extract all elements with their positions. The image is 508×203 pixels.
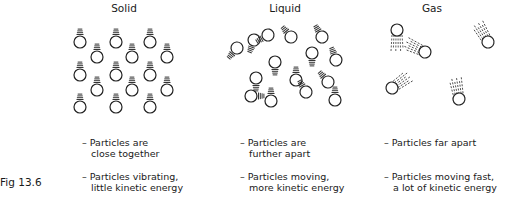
liquid-particle — [326, 46, 344, 68]
liquid-particle — [265, 88, 277, 107]
gas-caption-energy: – Particles moving fast, a lot of kineti… — [384, 171, 497, 193]
solid-particle — [91, 77, 103, 96]
solid-particle — [161, 77, 173, 96]
liquid-particle — [329, 87, 341, 106]
liquid-particle — [245, 90, 264, 102]
solid-particle — [144, 94, 156, 113]
liquid-caption-spacing: – Particles are further apart — [240, 137, 310, 159]
gas-particle — [403, 38, 433, 60]
solid-particle — [74, 62, 86, 81]
gas-particle — [472, 21, 496, 50]
liquid-particle — [269, 56, 281, 75]
gas-caption-spacing: – Particles far apart — [384, 137, 476, 148]
liquid-particle — [278, 23, 299, 45]
solid-particle — [126, 44, 138, 63]
solid-caption-spacing: – Particles are close together — [82, 137, 159, 159]
solid-caption-energy: – Particles vibrating, little kinetic en… — [82, 171, 183, 193]
gas-particle — [449, 77, 466, 106]
gas-particle — [391, 24, 403, 51]
solid-particle — [144, 62, 156, 81]
liquid-particle — [244, 32, 262, 54]
figure-label: Fig 13.6 — [0, 176, 42, 188]
gas-particle — [384, 71, 413, 96]
solid-particle — [74, 29, 86, 48]
solid-particle — [74, 94, 86, 113]
solid-particle — [144, 29, 156, 48]
solid-particle — [110, 62, 122, 81]
liquid-particle — [224, 40, 245, 62]
liquid-particle — [310, 23, 330, 45]
liquid-particle — [250, 72, 262, 91]
solid-particle — [110, 29, 122, 48]
liquid-particle — [306, 47, 318, 66]
solid-particle — [110, 94, 122, 113]
liquid-particle — [290, 67, 302, 86]
liquid-caption-energy: – Particles moving, more kinetic energy — [240, 171, 344, 193]
solid-particle — [126, 77, 138, 96]
solid-particle — [91, 44, 103, 63]
solid-particle — [161, 44, 173, 63]
